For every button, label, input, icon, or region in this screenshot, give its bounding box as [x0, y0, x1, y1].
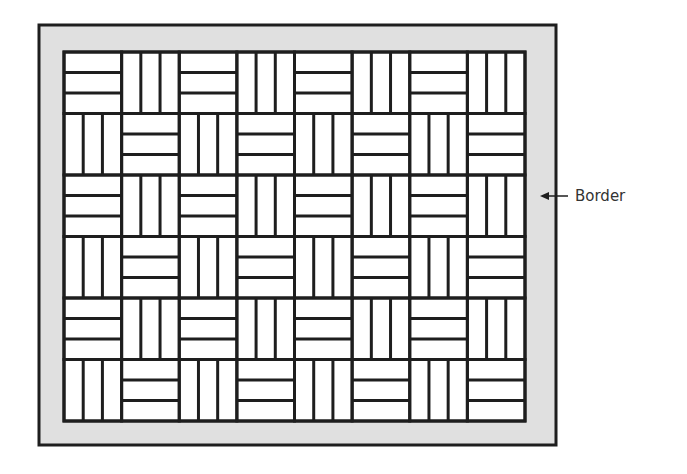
basketweave-diagram	[0, 0, 687, 474]
border-label: Border	[575, 186, 625, 206]
